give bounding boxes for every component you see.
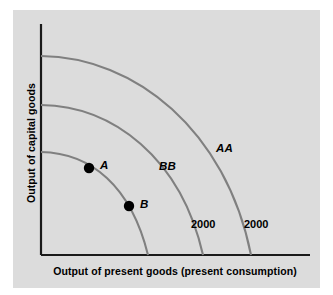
curve-label-aa: AA bbox=[216, 142, 233, 154]
curve-bb bbox=[41, 105, 203, 255]
chart-panel: AA BB 2000 2000 A B Output of present go… bbox=[13, 10, 320, 288]
year-label-aa: 2000 bbox=[244, 218, 268, 230]
curve-label-bb: BB bbox=[159, 160, 176, 172]
point-label-b: B bbox=[140, 198, 148, 210]
data-point-b bbox=[124, 201, 134, 211]
point-label-a: A bbox=[100, 159, 108, 171]
year-label-bb: 2000 bbox=[191, 218, 215, 230]
x-axis-label: Output of present goods (present consump… bbox=[35, 265, 315, 277]
curve-aa bbox=[41, 56, 251, 255]
figure-root: AA BB 2000 2000 A B Output of present go… bbox=[0, 0, 333, 295]
data-point-a bbox=[84, 163, 94, 173]
ppf-plot bbox=[13, 10, 320, 288]
y-axis-label: Output of capital goods bbox=[25, 63, 37, 223]
